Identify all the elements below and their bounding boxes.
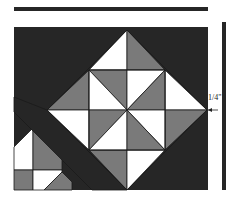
quilt-diagram [0,0,240,202]
vertical-bar [222,22,226,190]
measurement-arrow [208,108,218,112]
measurement-label: 1/4" [208,94,222,102]
top-bar [14,7,208,11]
